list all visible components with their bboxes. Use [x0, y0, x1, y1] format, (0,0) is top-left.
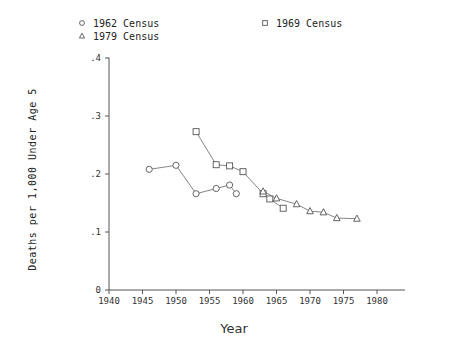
marker-square — [193, 129, 199, 135]
marker-circle — [227, 182, 233, 188]
x-axis-tick-label: 1950 — [165, 296, 187, 306]
x-axis-tick-label: 1940 — [98, 296, 120, 306]
y-axis: 0.1.2.3.4 — [90, 53, 109, 295]
x-axis-tick-label: 1960 — [232, 296, 254, 306]
x-axis-tick-label: 1975 — [333, 296, 355, 306]
legend-marker-square — [263, 21, 268, 26]
legend-marker-triangle — [79, 33, 84, 38]
marker-circle — [233, 191, 239, 197]
marker-circle — [213, 185, 219, 191]
y-axis-tick-label: .3 — [90, 111, 101, 121]
marker-circle — [173, 162, 179, 168]
chart-container: 1962 Census1969 Census1979 Census 0.1.2.… — [0, 0, 459, 344]
x-axis: 194019451950195519601965197019751980 — [98, 290, 405, 306]
marker-triangle — [273, 195, 280, 201]
legend-item-1979-census: 1979 Census — [79, 31, 159, 42]
marker-square — [213, 162, 219, 168]
legend-item-1962-census: 1962 Census — [80, 18, 160, 29]
x-axis-tick-label: 1965 — [266, 296, 288, 306]
x-axis-tick-label: 1980 — [366, 296, 388, 306]
census-mortality-line-chart: 1962 Census1969 Census1979 Census 0.1.2.… — [0, 0, 459, 344]
data-series-group — [146, 129, 360, 222]
series-1962-census — [146, 162, 239, 197]
legend-label: 1969 Census — [276, 18, 342, 29]
y-axis-tick-label: .1 — [90, 227, 101, 237]
y-axis-tick-label: .4 — [90, 53, 101, 63]
legend-marker-circle — [80, 21, 85, 26]
marker-square — [227, 163, 233, 169]
marker-circle — [193, 191, 199, 197]
x-axis-title: Year — [219, 321, 248, 336]
y-axis-tick-label: .2 — [90, 169, 101, 179]
series-1979-census — [260, 188, 360, 221]
legend-item-1969-census: 1969 Census — [263, 18, 343, 29]
marker-square — [280, 205, 286, 211]
marker-triangle — [307, 208, 314, 214]
marker-triangle — [333, 214, 340, 220]
legend-label: 1962 Census — [93, 18, 159, 29]
marker-square — [267, 196, 273, 202]
chart-legend: 1962 Census1969 Census1979 Census — [79, 18, 342, 42]
series-line — [149, 165, 236, 193]
y-axis-title: Deaths per 1,000 Under Age 5 — [27, 70, 38, 290]
marker-circle — [146, 166, 152, 172]
y-axis-tick-label: 0 — [96, 285, 101, 295]
x-axis-tick-label: 1970 — [299, 296, 321, 306]
legend-label: 1979 Census — [93, 31, 159, 42]
series-1969-census — [193, 129, 286, 212]
x-axis-tick-label: 1955 — [199, 296, 221, 306]
x-axis-tick-label: 1945 — [132, 296, 154, 306]
marker-square — [240, 169, 246, 175]
